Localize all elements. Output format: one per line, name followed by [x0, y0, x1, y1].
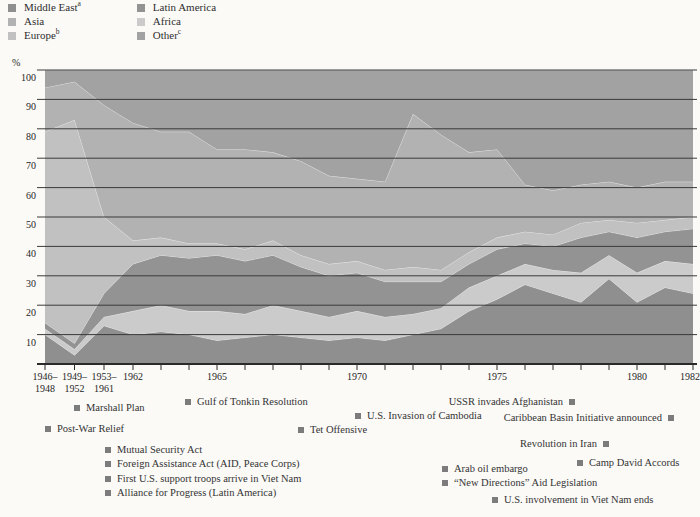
event-annotation: Marshall Plan [74, 402, 145, 414]
event-label: First U.S. support troops arrive in Viet… [117, 473, 301, 485]
event-label: Post-War Relief [57, 423, 124, 435]
event-label: Mutual Security Act [117, 444, 202, 456]
legend-label: Otherc [153, 30, 181, 41]
x-tick-label: 1952 [65, 383, 85, 394]
event-label: Revolution in Iran [520, 438, 597, 450]
event-annotation: Gulf of Tonkin Resolution [185, 396, 308, 408]
event-annotation: Post-War Relief [45, 423, 124, 435]
x-tick-label: 1948 [35, 383, 55, 394]
y-tick-label: 10 [26, 337, 36, 348]
event-marker-icon [442, 480, 448, 486]
legend-label: Africa [153, 16, 181, 27]
event-label: USSR invades Afghanistan [449, 396, 563, 408]
y-tick-label: 50 [26, 219, 36, 230]
event-marker-icon [105, 447, 111, 453]
legend-item-latin-america: Latin America [137, 2, 216, 13]
event-marker-icon [45, 426, 51, 432]
event-marker-icon [569, 399, 575, 405]
event-marker-icon [105, 476, 111, 482]
event-label: U.S. involvement in Viet Nam ends [504, 494, 653, 506]
legend-column-2: Latin America Africa Otherc [137, 2, 216, 41]
event-marker-icon [185, 399, 191, 405]
event-label: “New Directions” Aid Legislation [454, 477, 597, 489]
event-marker-icon [105, 461, 111, 467]
event-marker-icon [603, 441, 609, 447]
asia-swatch-icon [8, 18, 16, 26]
x-tick-label: 1946– [33, 371, 59, 382]
africa-swatch-icon [137, 18, 145, 26]
x-tick-label: 1975 [487, 371, 507, 382]
legend-item-africa: Africa [137, 16, 216, 27]
y-tick-label: 80 [26, 131, 36, 142]
europe-swatch-icon [8, 32, 16, 40]
other-swatch-icon [137, 32, 145, 40]
y-tick-label: 70 [26, 160, 36, 171]
event-label: Foreign Assistance Act (AID, Peace Corps… [117, 458, 300, 470]
event-annotation: U.S. involvement in Viet Nam ends [492, 494, 653, 506]
event-annotation: U.S. Invasion of Cambodia [355, 410, 482, 422]
event-annotation: First U.S. support troops arrive in Viet… [105, 473, 301, 485]
x-tick-label: 1965 [207, 371, 227, 382]
legend-column-1: Middle Easta Asia Europeb [8, 2, 81, 41]
y-tick-label: 90 [26, 101, 36, 112]
legend-label: Europeb [24, 30, 60, 41]
legend-item-europe: Europeb [8, 30, 81, 41]
y-tick-label: 20 [26, 307, 36, 318]
x-tick-label: 1953– [92, 371, 118, 382]
x-tick-label: 1970 [347, 371, 367, 382]
event-annotation: Caribbean Basin Initiative announced [504, 412, 674, 424]
event-marker-icon [105, 490, 111, 496]
x-tick-label: 1980 [627, 371, 647, 382]
event-annotation: USSR invades Afghanistan [449, 396, 575, 408]
y-axis-unit-label: % [12, 57, 20, 68]
event-annotation: Revolution in Iran [520, 438, 609, 450]
event-annotation: “New Directions” Aid Legislation [442, 477, 597, 489]
y-tick-label: 40 [26, 248, 36, 259]
event-marker-icon [668, 415, 674, 421]
event-marker-icon [355, 413, 361, 419]
event-label: Tet Offensive [310, 424, 367, 436]
event-label: Camp David Accords [589, 457, 679, 469]
latin-america-swatch-icon [137, 4, 145, 12]
middle-east-swatch-icon [8, 4, 16, 12]
event-label: Alliance for Progress (Latin America) [117, 487, 276, 499]
y-tick-label: 30 [26, 278, 36, 289]
y-tick-label: 60 [26, 190, 36, 201]
event-marker-icon [74, 405, 80, 411]
legend-item-other: Otherc [137, 30, 216, 41]
event-marker-icon [577, 460, 583, 466]
legend-label: Latin America [153, 2, 216, 13]
event-annotation: Arab oil embargo [442, 463, 528, 475]
event-label: Caribbean Basin Initiative announced [504, 412, 662, 424]
event-marker-icon [492, 497, 498, 503]
event-annotation: Tet Offensive [298, 424, 367, 436]
legend-item-middle-east: Middle Easta [8, 2, 81, 13]
event-annotation: Mutual Security Act [105, 444, 202, 456]
legend-label: Middle Easta [24, 2, 81, 13]
foreign-aid-by-region-figure: %1020304050607080901001946–19481949–1952… [0, 0, 700, 517]
event-annotation: Camp David Accords [577, 457, 679, 469]
x-tick-label: 1961 [94, 383, 114, 394]
legend-label: Asia [24, 16, 44, 27]
stacked-area-chart: %1020304050607080901001946–19481949–1952… [0, 0, 700, 400]
x-tick-label: 1949– [62, 371, 88, 382]
event-marker-icon [442, 466, 448, 472]
x-tick-label: 1982 [680, 371, 700, 382]
event-label: Marshall Plan [86, 402, 145, 414]
event-marker-icon [298, 427, 304, 433]
event-annotation: Foreign Assistance Act (AID, Peace Corps… [105, 458, 300, 470]
chart-legend: Middle Easta Asia Europeb Latin America … [8, 2, 216, 41]
event-label: Arab oil embargo [454, 463, 528, 475]
event-label: Gulf of Tonkin Resolution [197, 396, 308, 408]
event-label: U.S. Invasion of Cambodia [367, 410, 482, 422]
event-annotation: Alliance for Progress (Latin America) [105, 487, 276, 499]
x-tick-label: 1962 [123, 371, 143, 382]
y-tick-label: 100 [21, 72, 36, 83]
legend-item-asia: Asia [8, 16, 81, 27]
